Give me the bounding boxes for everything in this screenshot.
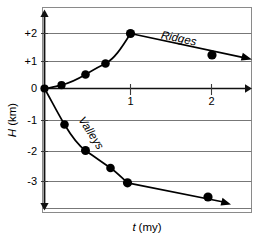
svg-text:H(km): H(km): [6, 103, 18, 137]
ridges-point: [126, 29, 135, 38]
ytick-label-minus2: -2: [27, 145, 37, 157]
ridges-point: [207, 50, 216, 59]
valleys-point: [60, 120, 69, 129]
ytick-label-plus1: +1: [24, 55, 37, 67]
ytick-label-zero: 0: [31, 82, 37, 94]
valleys-point: [106, 164, 115, 173]
valleys-point: [203, 192, 212, 201]
ytick-label-plus2: +2: [24, 27, 37, 39]
x-axis-title: t(my): [132, 221, 161, 233]
xtick-label-1: 1: [127, 95, 133, 107]
y-axis-title: H(km): [6, 103, 18, 137]
valleys-point: [123, 178, 132, 187]
ridges-point: [57, 81, 65, 89]
x-axis-title-symbol: t: [132, 221, 136, 233]
chart-canvas: +2 +1 0 -1 -2 -3 1 2 H(km) t(my) Ridges …: [0, 0, 265, 240]
valleys-point: [81, 146, 90, 155]
y-axis-title-units: (km): [6, 103, 18, 126]
x-axis-title-units: (my): [139, 221, 162, 233]
ytick-label-minus3: -3: [27, 175, 37, 187]
xtick-label-2: 2: [208, 95, 214, 107]
ytick-label-minus1: -1: [27, 114, 37, 126]
ridges-point: [101, 59, 110, 68]
y-axis-title-symbol: H: [6, 128, 18, 137]
figure-panel: +2 +1 0 -1 -2 -3 1 2 H(km) t(my) Ridges …: [0, 0, 265, 240]
ridges-point: [81, 70, 90, 79]
